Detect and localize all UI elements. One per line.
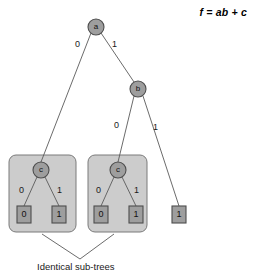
edge-b-to-leaf-far-1 [143,96,179,206]
caption-leader-right [80,234,114,259]
decision-tree-graphic [0,0,255,280]
edge-label-b-1: 1 [153,123,158,132]
leaf-left-1-label: 1 [52,210,66,219]
figure-canvas: f = ab + c a b c c 0 [0,0,255,280]
caption-leader-left [42,234,80,259]
identical-subtrees-caption: Identical sub-trees [37,261,115,272]
edge-b-to-c-right [118,96,134,162]
edge-label-b-0: 0 [114,121,119,130]
node-c-right-label: c [110,166,126,174]
edge-a-to-c-left [41,33,91,162]
edge-a-to-b [101,33,134,82]
edge-label-cleft-1: 1 [57,186,62,195]
node-b-label: b [130,85,146,93]
edge-label-cleft-0: 0 [19,186,24,195]
node-a-label: a [88,23,104,31]
edge-label-a-0: 0 [75,40,80,49]
leaf-left-0-label: 0 [17,210,31,219]
leaf-far-1-label: 1 [172,210,186,219]
edge-label-cright-0: 0 [96,186,101,195]
edge-label-a-1: 1 [112,40,117,49]
leaf-right-0-label: 0 [94,210,108,219]
leaf-right-1-label: 1 [129,210,143,219]
node-c-left-label: c [33,166,49,174]
edge-label-cright-1: 1 [134,186,139,195]
